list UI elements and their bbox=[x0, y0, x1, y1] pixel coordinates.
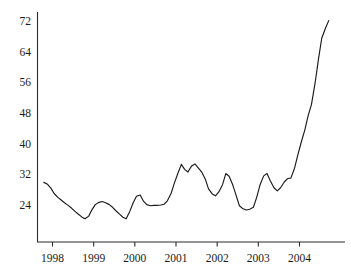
x-axis-tick-labels: 1998199920002001200220032004 bbox=[41, 252, 311, 264]
x-tick-label: 2003 bbox=[247, 252, 270, 264]
x-axis-tick-marks bbox=[53, 242, 300, 247]
x-tick-label: 2000 bbox=[123, 252, 146, 264]
axis-lines bbox=[38, 12, 346, 242]
x-tick-label: 1998 bbox=[41, 252, 64, 264]
y-axis-tick-labels: 24324048566472 bbox=[20, 15, 32, 211]
line-chart: 24324048566472 1998199920002001200220032… bbox=[0, 0, 351, 271]
x-tick-label: 1999 bbox=[82, 252, 105, 264]
y-tick-label: 48 bbox=[20, 107, 32, 119]
y-tick-label: 72 bbox=[20, 15, 32, 27]
y-tick-label: 40 bbox=[20, 138, 32, 150]
x-tick-label: 2004 bbox=[288, 252, 311, 264]
y-tick-label: 24 bbox=[20, 199, 32, 211]
y-tick-label: 32 bbox=[20, 168, 32, 180]
y-tick-label: 64 bbox=[20, 46, 32, 58]
x-tick-label: 2001 bbox=[165, 252, 188, 264]
data-series-line bbox=[44, 21, 329, 219]
y-tick-label: 56 bbox=[20, 76, 32, 88]
x-tick-label: 2002 bbox=[206, 252, 229, 264]
chart-container: 24324048566472 1998199920002001200220032… bbox=[0, 0, 351, 271]
